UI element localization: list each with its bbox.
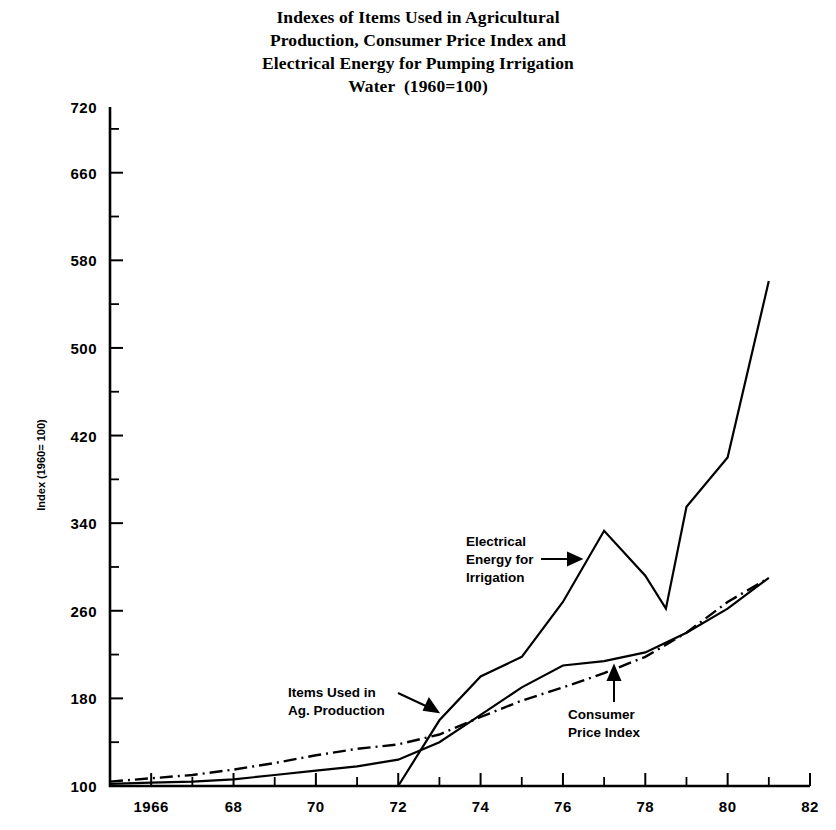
y-axis-tick-label: 260 [70,603,97,620]
y-axis-tick-labels: 100180260340420500580660720 [70,99,97,795]
y-axis-tick-label: 340 [70,515,97,532]
chart-figure: Indexes of Items Used in Agricultural Pr… [0,0,836,830]
annotation-electrical-line-2: Energy for [466,552,534,567]
annotation-cpi-line-2: Price Index [568,725,641,740]
annotation-consumer-price-index: Consumer Price Index [568,666,641,740]
y-axis-tick-label: 720 [70,99,97,116]
annotation-cpi-arrow-head [608,666,620,680]
x-axis-tick-label: 82 [801,798,819,815]
series-line-consumer-price-index [110,578,769,782]
series-line-electrical-energy [110,281,769,786]
x-axis-tick-label: 70 [307,798,325,815]
y-axis-tick-label: 660 [70,165,97,182]
chart-svg: 100180260340420500580660720 196668707274… [0,0,836,830]
series-line-items-used [110,578,769,784]
x-axis-tick-label: 1966 [133,798,168,815]
x-axis-tick-label: 68 [225,798,243,815]
annotation-items-arrow-shaft [398,693,428,707]
annotation-items-arrow-head [424,699,438,712]
annotation-electrical-arrow-head [568,553,581,565]
x-axis-tick-labels: 19666870727476788082 [133,798,818,815]
annotation-cpi-line-1: Consumer [568,707,636,722]
y-axis-tick-label: 580 [70,252,97,269]
y-axis-tick-label: 420 [70,428,97,445]
x-axis-tick-label: 80 [719,798,737,815]
annotation-items-line-1: Items Used in [288,685,376,700]
y-axis-tick-label: 500 [70,340,97,357]
annotation-electrical-line-3: Irrigation [466,570,525,585]
x-axis-tick-label: 72 [389,798,407,815]
annotation-items-used: Items Used in Ag. Production [288,685,438,718]
x-axis-tick-label: 78 [636,798,654,815]
y-axis-tick-label: 180 [70,690,97,707]
y-axis-tick-label: 100 [70,778,97,795]
annotation-items-line-2: Ag. Production [288,703,385,718]
x-axis-tick-label: 74 [472,798,490,815]
x-axis-tick-label: 76 [554,798,572,815]
y-axis-ticks [110,129,123,786]
x-axis-ticks [151,773,810,786]
annotation-electrical-line-1: Electrical [466,534,526,549]
axis-spines [110,107,810,786]
y-axis-label: Index (1960= 100) [35,419,47,511]
annotation-electrical-energy: Electrical Energy for Irrigation [466,534,581,585]
